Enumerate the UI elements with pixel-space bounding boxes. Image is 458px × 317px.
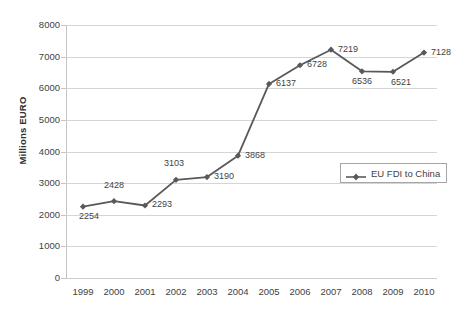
data-label: 6536 [352, 76, 372, 86]
x-axis-tick-label: 2010 [404, 286, 444, 297]
data-label: 2293 [152, 199, 172, 209]
data-label: 6521 [391, 77, 411, 87]
data-label: 3190 [214, 171, 234, 181]
data-label: 2428 [104, 180, 124, 190]
data-label: 7128 [431, 47, 451, 57]
legend-label: EU FDI to China [371, 168, 440, 179]
line-chart: Millions EURO 01000200030004000500060007… [0, 0, 458, 317]
data-label: 3103 [164, 158, 184, 168]
series-layer [0, 0, 458, 317]
data-point-marker[interactable] [111, 198, 117, 204]
data-label: 3868 [245, 150, 265, 160]
series-line [83, 50, 424, 207]
data-point-marker[interactable] [80, 204, 86, 210]
chart-legend[interactable]: EU FDI to China [340, 163, 447, 183]
data-label: 6728 [307, 59, 327, 69]
legend-marker-icon [345, 168, 367, 178]
data-label: 7219 [338, 44, 358, 54]
data-label: 6137 [276, 78, 296, 88]
data-label: 2254 [79, 211, 99, 221]
